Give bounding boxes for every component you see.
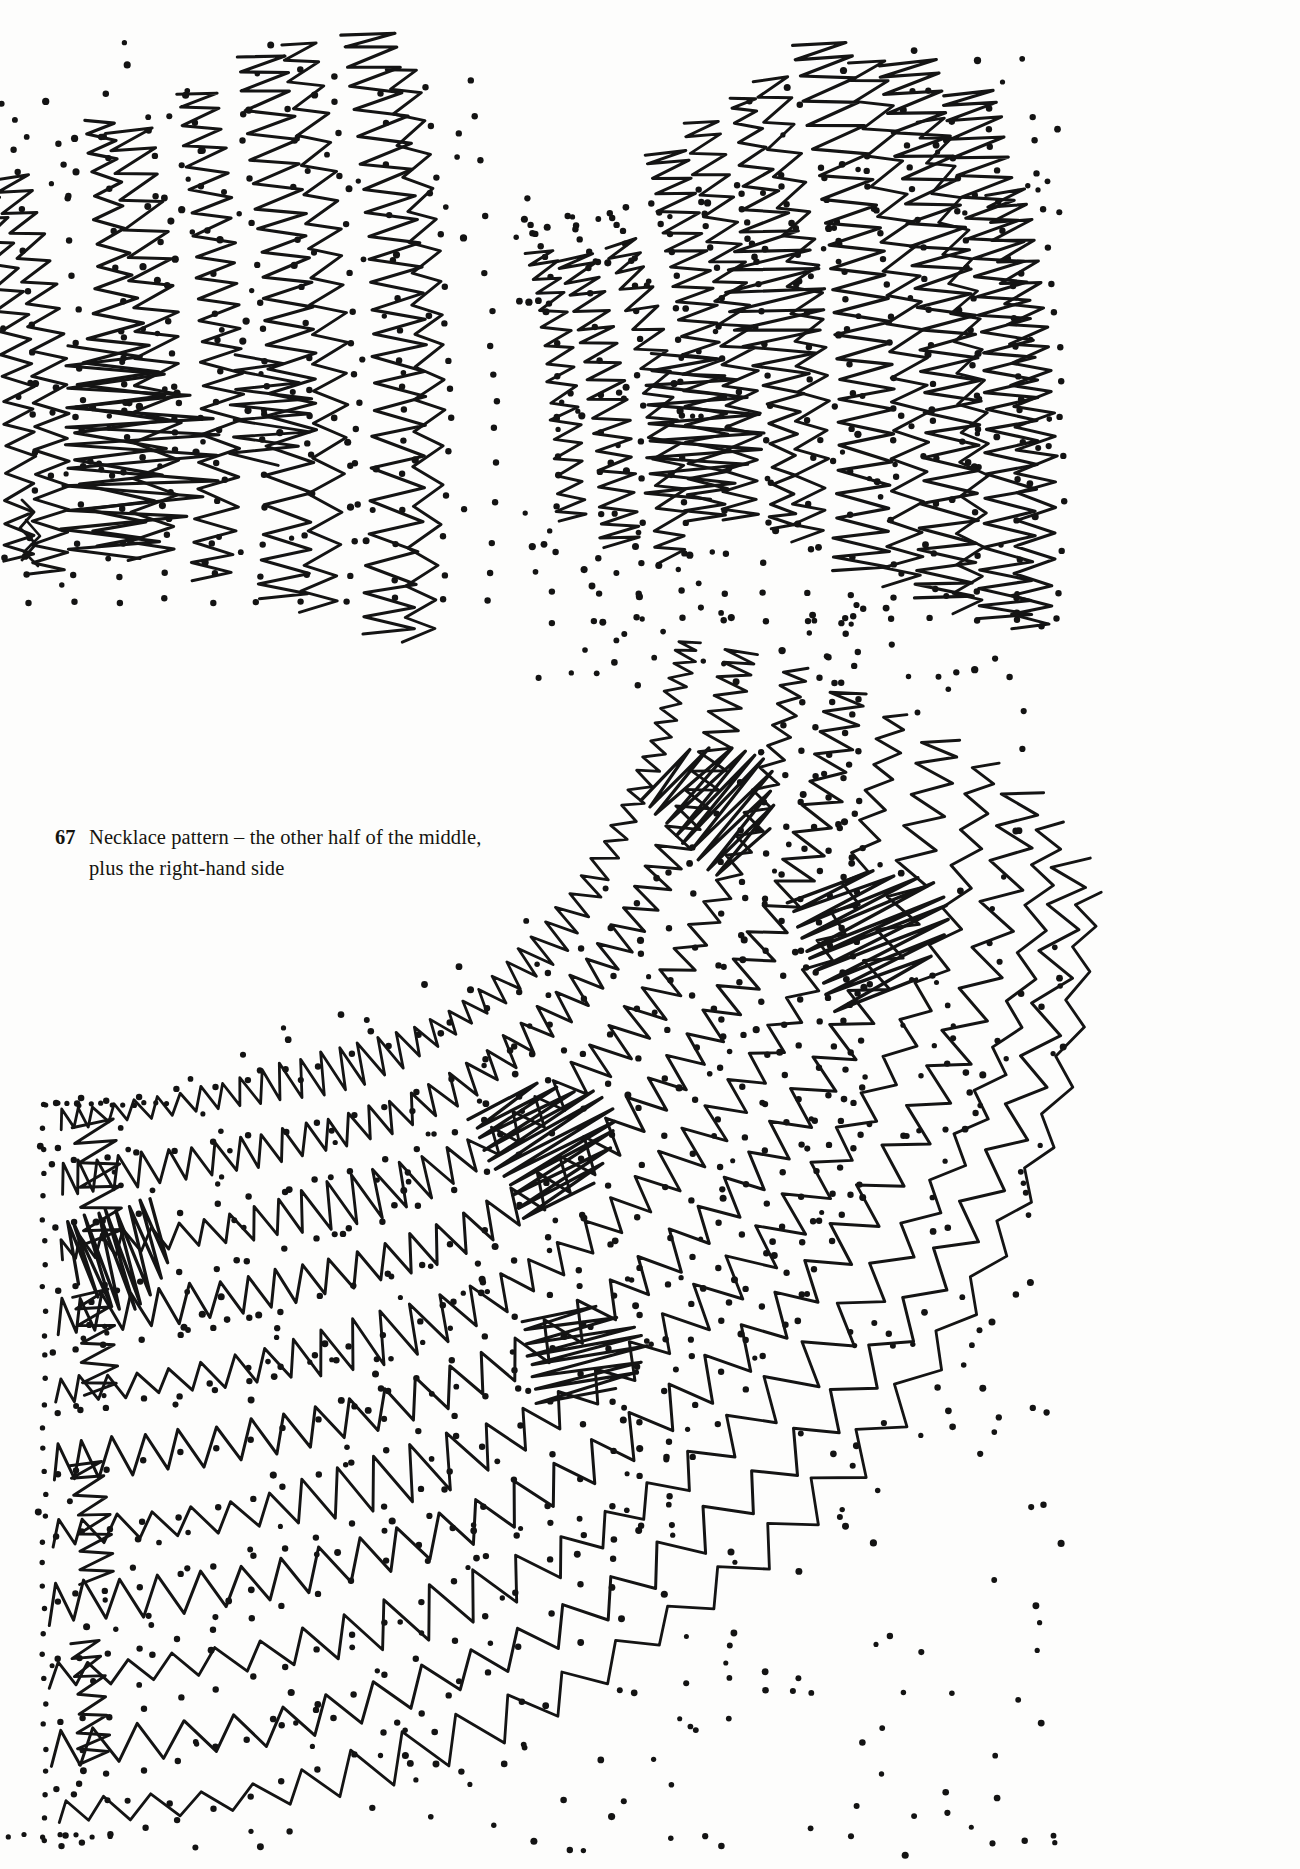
caption-line-2: plus the right-hand side <box>89 853 615 884</box>
necklace-pattern-figure <box>0 0 1300 1869</box>
scanned-page: 67 Necklace pattern – the other half of … <box>0 0 1300 1869</box>
figure-caption: 67 Necklace pattern – the other half of … <box>55 822 615 884</box>
zigzag-thread-lines <box>0 33 1101 1822</box>
figure-number: 67 <box>55 822 89 853</box>
caption-line-1: Necklace pattern – the other half of the… <box>89 822 615 853</box>
